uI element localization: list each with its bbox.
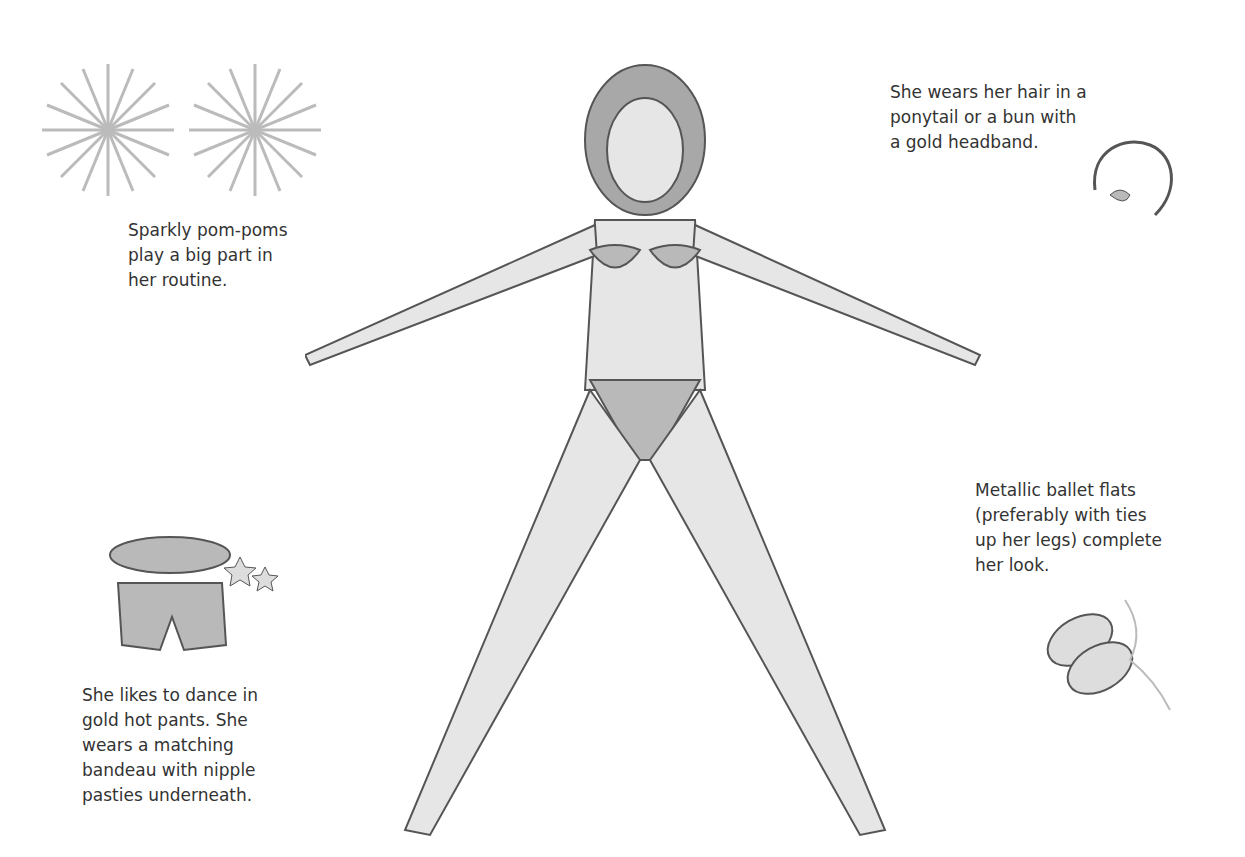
pompoms-illustration bbox=[40, 62, 330, 197]
hotpants-caption: She likes to dance in gold hot pants. Sh… bbox=[82, 683, 258, 808]
pompoms-caption: Sparkly pom-poms play a big part in her … bbox=[128, 218, 288, 293]
hotpants-illustration bbox=[100, 525, 280, 665]
central-figure-illustration bbox=[305, 60, 985, 840]
headband-illustration bbox=[1085, 130, 1185, 220]
ballet-flats-illustration bbox=[1025, 590, 1185, 720]
flats-caption: Metallic ballet flats (preferably with t… bbox=[975, 478, 1162, 578]
